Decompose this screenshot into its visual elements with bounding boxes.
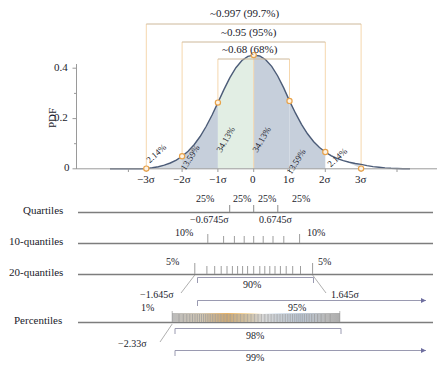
vigintile-sigma-neg: −1.645σ (140, 290, 174, 300)
span-99-bracket (175, 351, 426, 357)
bracket-label-68: ~0.68 (68%) (222, 44, 277, 55)
decile-pct-left: 10% (175, 228, 193, 238)
row-title-quartiles: Quartiles (23, 205, 63, 216)
quantile-rows (78, 213, 433, 323)
marker-plus3 (359, 166, 364, 171)
row-title-10quantiles: 10-quantiles (9, 236, 63, 247)
decile-pct-right: 10% (307, 228, 325, 238)
marker-plus2 (323, 149, 328, 154)
vigintile-pct-left: 5% (166, 257, 179, 267)
x-tick-label-plus2: 2σ (319, 174, 330, 185)
bracket-label-997: ~0.997 (99.7%) (210, 8, 279, 19)
x-tick-label-zero: 0 (250, 174, 256, 185)
row-title-percentiles: Percentiles (14, 315, 62, 326)
decile-ticks (208, 234, 300, 243)
leader-minus233 (160, 324, 172, 342)
span-label-90: 90% (243, 280, 261, 290)
percentile-ticks (172, 311, 340, 322)
span-95-bracket (198, 301, 427, 307)
x-tick-label-plus3: 3σ (355, 174, 366, 185)
marker-minus3 (144, 166, 149, 171)
percentile-pct-left: 1% (141, 303, 154, 313)
quartile-pct-1: 25% (196, 194, 214, 204)
leader-minus1645 (181, 275, 195, 293)
row-title-20quantiles: 20-quantiles (9, 267, 63, 278)
span-label-99: 99% (246, 353, 264, 363)
bracket-label-95: ~0.95 (95%) (221, 27, 276, 38)
quartile-pct-2: 25% (233, 194, 251, 204)
vigintile-sigma-pos: 1.645σ (331, 290, 359, 300)
span-label-98: 98% (246, 331, 264, 341)
x-tick-label-minus2: −2σ (173, 174, 191, 185)
quartile-sigma-pos: 0.6745σ (259, 215, 292, 225)
x-tick-label-minus3: −3σ (137, 174, 155, 185)
quartile-pct-3: 25% (258, 194, 276, 204)
figure-canvas (0, 0, 442, 376)
quartile-pct-4: 25% (292, 194, 310, 204)
normal-distribution-figure: PDF 0.4 0.2 0 −3σ −2σ −1σ 0 1σ 2σ 3σ ~0.… (0, 0, 442, 376)
x-tick-label-minus1: −1σ (209, 174, 227, 185)
percentile-sigma-neg: −2.33σ (118, 339, 147, 349)
marker-minus1 (215, 100, 220, 105)
vigintile-ticks (195, 263, 313, 274)
quartile-ticks (230, 205, 278, 212)
y-tick-label-0: 0 (64, 162, 70, 173)
marker-plus1 (287, 98, 292, 103)
vigintile-pct-right: 5% (318, 257, 331, 267)
leader-plus1645 (313, 275, 326, 293)
y-tick-label-04: 0.4 (54, 62, 68, 73)
span-label-95: 95% (288, 303, 306, 313)
quartile-sigma-neg: −0.6745σ (190, 215, 229, 225)
y-tick-label-02: 0.2 (54, 112, 68, 123)
